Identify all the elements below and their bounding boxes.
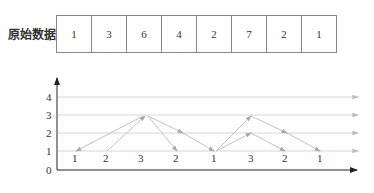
y-tick: 4	[46, 91, 52, 103]
x-labels: 1 2 3 2 1 3 2 1	[72, 152, 323, 164]
edges	[76, 116, 320, 151]
x-label: 3	[138, 152, 144, 164]
y-tick: 1	[46, 145, 52, 157]
x-label: 2	[173, 152, 179, 164]
y-tick: 3	[46, 109, 52, 121]
x-label: 1	[211, 152, 217, 164]
grid-lines	[58, 97, 358, 151]
y-tick: 0	[46, 164, 52, 176]
y-tick-labels: 0 1 2 3 4	[46, 91, 52, 176]
x-label: 3	[248, 152, 254, 164]
axes	[57, 78, 357, 170]
x-label: 2	[103, 152, 109, 164]
y-tick: 2	[46, 127, 52, 139]
x-label: 2	[282, 152, 288, 164]
level-diagram: 0 1 2 3 4 1 2 3 2 1 3 2 1	[0, 0, 374, 193]
x-label: 1	[317, 152, 323, 164]
x-label: 1	[72, 152, 78, 164]
